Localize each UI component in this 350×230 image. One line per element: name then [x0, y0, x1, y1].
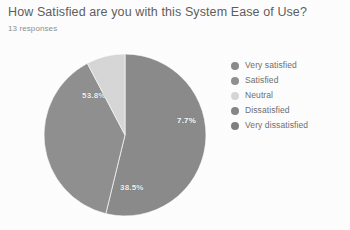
slice-label-neutral: 7.7%: [177, 116, 196, 125]
legend-color-swatch-icon: [231, 107, 239, 115]
legend-item-dissatisfied[interactable]: Dissatisfied: [231, 103, 349, 118]
legend-item-satisfied[interactable]: Satisfied: [231, 73, 349, 88]
chart-body: 53.8% 38.5% 7.7% Very satisfied Satisfie…: [0, 44, 350, 230]
legend-item-label: Satisfied: [245, 75, 279, 86]
legend-item-very-dissatisfied[interactable]: Very dissatisfied: [231, 118, 349, 133]
response-count: 13 responses: [8, 23, 348, 35]
legend-item-label: Dissatisfied: [245, 105, 290, 116]
legend-item-label: Neutral: [245, 90, 273, 101]
legend-item-label: Very dissatisfied: [245, 120, 308, 131]
pie-chart: 53.8% 38.5% 7.7%: [44, 54, 206, 216]
legend-item-very-satisfied[interactable]: Very satisfied: [231, 58, 349, 73]
page-title: How Satisfied are you with this System E…: [8, 4, 348, 20]
legend-color-swatch-icon: [231, 122, 239, 130]
legend-color-swatch-icon: [231, 92, 239, 100]
legend-color-swatch-icon: [231, 62, 239, 70]
legend: Very satisfied Satisfied Neutral Dissati…: [231, 58, 349, 133]
slice-label-very-satisfied: 53.8%: [82, 91, 106, 100]
legend-item-neutral[interactable]: Neutral: [231, 88, 349, 103]
legend-color-swatch-icon: [231, 77, 239, 85]
slice-label-satisfied: 38.5%: [120, 183, 144, 192]
chart-header: How Satisfied are you with this System E…: [8, 4, 348, 35]
legend-item-label: Very satisfied: [245, 60, 297, 71]
